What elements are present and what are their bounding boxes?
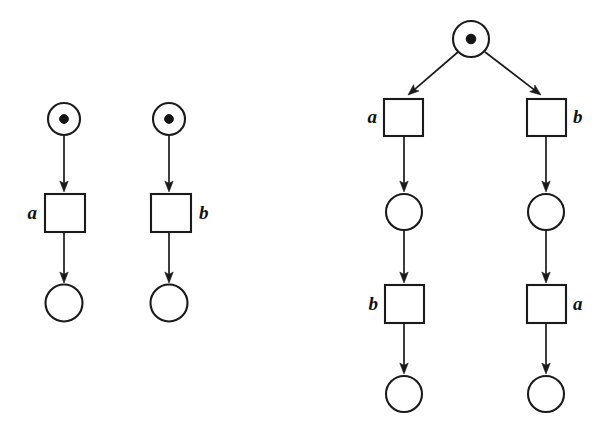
arc-transition-b-to-place-right	[542, 136, 550, 192]
place-left-bottom-ring	[46, 285, 83, 322]
transition-b-right-branch-top-box	[527, 99, 566, 136]
place-left-bottom	[46, 285, 83, 322]
arc-place-left-to-transition-b	[400, 230, 408, 283]
transition-b-right-branch-top-label: b	[573, 106, 583, 127]
transition-a-left-branch-top	[384, 99, 423, 136]
arc-transition-b-to-place-left-bottom	[400, 323, 408, 374]
place-marked-left-top	[48, 103, 80, 135]
arc-place-to-transition-a	[60, 135, 68, 192]
arc-root-to-transition-b-shaft	[485, 52, 535, 90]
transition-a-right-branch-bottom-box	[527, 285, 566, 323]
arc-transition-a-to-place-left	[400, 136, 408, 192]
transition-a-left	[45, 194, 85, 232]
transition-b-left-label: b	[199, 202, 209, 223]
labels-layer: ababba	[28, 106, 584, 314]
place-right-branch-middle-ring	[528, 194, 564, 230]
place-right-bottom	[151, 285, 188, 322]
arc-root-to-transition-a	[408, 52, 458, 95]
place-left-branch-middle-ring	[386, 194, 422, 230]
arc-transition-a-to-place	[60, 232, 68, 283]
arc-transition-b-to-place	[165, 232, 173, 283]
arc-root-to-transition-b	[485, 52, 541, 95]
transition-a-left-branch-top-label: a	[368, 106, 378, 127]
place-marked-root	[453, 21, 489, 57]
transition-b-left-branch-bottom-label: b	[369, 293, 379, 314]
place-right-branch-bottom	[528, 376, 564, 412]
place-marked-right-top-token	[165, 115, 174, 124]
transition-b-left-branch-bottom	[385, 285, 424, 323]
place-marked-root-token	[466, 34, 476, 44]
transition-a-left-box	[45, 194, 85, 232]
transition-b-left	[151, 194, 191, 232]
place-left-branch-bottom	[386, 376, 422, 412]
transition-a-right-branch-bottom	[527, 285, 566, 323]
transition-b-left-box	[151, 194, 191, 232]
arc-place-to-transition-b	[165, 135, 173, 192]
place-left-branch-bottom-ring	[386, 376, 422, 412]
arcs-layer	[60, 52, 550, 374]
petri-net-figure: ababba	[0, 0, 604, 438]
transition-b-left-branch-bottom-box	[385, 285, 424, 323]
nodes-layer	[45, 21, 566, 412]
arc-place-right-to-transition-a	[542, 230, 550, 283]
transition-a-left-branch-top-box	[384, 99, 423, 136]
place-marked-right-top	[153, 103, 185, 135]
place-right-bottom-ring	[151, 285, 188, 322]
petri-net-canvas: ababba	[0, 0, 604, 438]
place-left-branch-middle	[386, 194, 422, 230]
transition-a-right-branch-bottom-label: a	[573, 293, 583, 314]
transition-b-right-branch-top	[527, 99, 566, 136]
place-right-branch-middle	[528, 194, 564, 230]
place-marked-left-top-token	[60, 115, 69, 124]
arc-transition-a-to-place-right-bottom	[542, 323, 550, 374]
arc-root-to-transition-a-shaft	[414, 52, 458, 90]
arc-root-to-transition-b-arrowhead	[530, 85, 541, 95]
transition-a-left-label: a	[28, 202, 38, 223]
place-right-branch-bottom-ring	[528, 376, 564, 412]
